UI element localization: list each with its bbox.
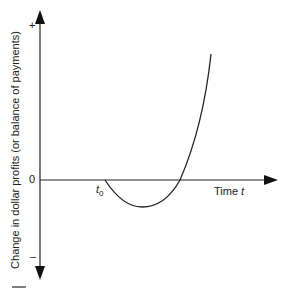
x-axis-text: Time <box>214 185 238 197</box>
right-arrow-icon <box>264 175 278 185</box>
y-minus-label: – <box>30 250 36 262</box>
y-axis-label: Change in dollar profits (or balance of … <box>9 31 21 269</box>
j-curve <box>105 54 211 207</box>
y-zero-label: 0 <box>29 173 35 185</box>
down-arrow-icon <box>35 266 45 280</box>
t0-subscript: 0 <box>99 189 103 198</box>
up-arrow-icon <box>35 10 45 24</box>
x-axis-label: Time t <box>214 185 244 197</box>
y-plus-label: + <box>29 19 35 31</box>
x-axis-var: t <box>241 185 244 197</box>
t0-label: t0 <box>96 183 104 198</box>
j-curve-diagram <box>0 0 286 295</box>
